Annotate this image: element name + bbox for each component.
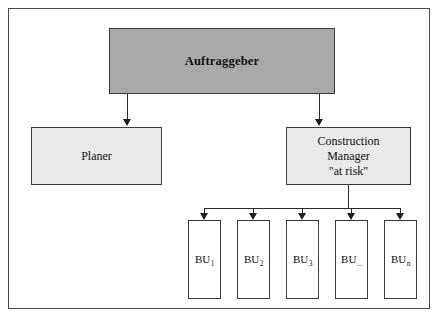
node-construction-manager-label: Construction Manager "at risk" bbox=[287, 134, 410, 179]
connector-client-to-planner bbox=[127, 94, 128, 120]
node-auftraggeber[interactable]: Auftraggeber bbox=[109, 28, 335, 94]
arrowhead-bu-2-icon bbox=[249, 213, 257, 220]
node-bu-1[interactable]: BU1 bbox=[188, 220, 221, 299]
arrowhead-client-to-construction-manager-icon bbox=[315, 119, 323, 126]
node-planer-label: Planer bbox=[32, 149, 161, 163]
node-bu-5-label: BUn bbox=[385, 253, 416, 266]
node-bu-4-subscript: ... bbox=[357, 259, 363, 268]
arrowhead-client-to-planner-icon bbox=[123, 119, 131, 126]
node-bu-2-base: BU bbox=[244, 253, 259, 265]
node-bu-4-label: BU... bbox=[336, 253, 367, 266]
node-bu-5[interactable]: BUn bbox=[384, 220, 417, 299]
node-bu-4[interactable]: BU... bbox=[335, 220, 368, 299]
node-bu-1-subscript: 1 bbox=[211, 259, 215, 268]
node-bu-5-subscript: n bbox=[407, 259, 411, 268]
connector-client-to-construction-manager bbox=[319, 94, 320, 120]
node-bu-3-label: BU3 bbox=[287, 253, 318, 266]
diagram-canvas: Auftraggeber Planer Construction Manager… bbox=[0, 0, 438, 318]
diagram-frame: Auftraggeber Planer Construction Manager… bbox=[8, 8, 430, 309]
node-planer[interactable]: Planer bbox=[31, 127, 162, 185]
node-construction-manager-line2: Manager bbox=[327, 149, 370, 163]
node-bu-2[interactable]: BU2 bbox=[237, 220, 270, 299]
node-bu-4-base: BU bbox=[341, 253, 356, 265]
arrowhead-bu-5-icon bbox=[396, 213, 404, 220]
node-bu-3-base: BU bbox=[293, 253, 308, 265]
node-construction-manager-line3: "at risk" bbox=[329, 164, 368, 178]
arrowhead-bu-3-icon bbox=[298, 213, 306, 220]
connector-construction-manager-drop bbox=[348, 185, 349, 208]
node-auftraggeber-label: Auftraggeber bbox=[110, 54, 334, 69]
node-bu-1-label: BU1 bbox=[189, 253, 220, 266]
node-construction-manager-line1: Construction bbox=[318, 134, 380, 148]
arrowhead-bu-4-icon bbox=[347, 213, 355, 220]
node-bu-5-base: BU bbox=[391, 253, 406, 265]
node-bu-2-subscript: 2 bbox=[260, 259, 264, 268]
arrowhead-bu-1-icon bbox=[200, 213, 208, 220]
node-bu-3-subscript: 3 bbox=[309, 259, 313, 268]
node-bu-1-base: BU bbox=[195, 253, 210, 265]
node-construction-manager[interactable]: Construction Manager "at risk" bbox=[286, 127, 411, 185]
node-bu-2-label: BU2 bbox=[238, 253, 269, 266]
node-bu-3[interactable]: BU3 bbox=[286, 220, 319, 299]
